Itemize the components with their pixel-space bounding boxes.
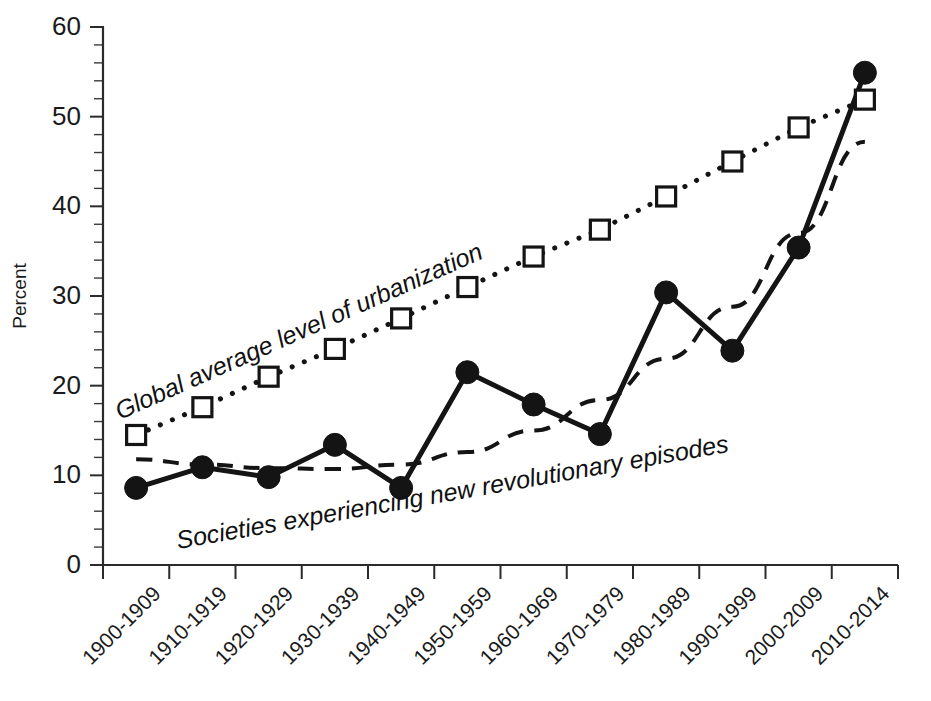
chart-figure: 0102030405060 1900-19091910-19191920-192… [0, 0, 931, 701]
data-point-marker [325, 339, 344, 358]
data-point-marker [257, 466, 280, 489]
y-axis-tick-label: 30 [52, 280, 81, 310]
data-point-marker [193, 398, 212, 417]
series-markers-group [125, 61, 877, 499]
y-axis-title: Percent [9, 263, 30, 329]
revolutions-label: Societies experiencing new revolutionary… [174, 429, 730, 554]
series-lines-group [136, 73, 865, 488]
y-axis-tick-label: 60 [52, 11, 81, 41]
data-point-marker [721, 339, 744, 362]
data-point-marker [853, 61, 876, 84]
x-axis-tick-labels: 1900-19091910-19191920-19291930-19391940… [78, 581, 894, 669]
data-point-marker [458, 278, 477, 297]
data-point-marker [191, 456, 214, 479]
data-point-marker [787, 236, 810, 259]
series-line-1 [136, 73, 865, 488]
data-point-marker [125, 476, 148, 499]
urbanization-label: Global average level of urbanization [111, 237, 487, 425]
y-axis-tick-label: 40 [52, 190, 81, 220]
data-point-marker [855, 90, 874, 109]
chart-annotations: Global average level of urbanizationSoci… [111, 237, 731, 554]
data-point-marker [323, 433, 346, 456]
series-line-2 [136, 142, 865, 469]
data-point-marker [655, 281, 678, 304]
y-axis-tick-label: 50 [52, 101, 81, 131]
series-line-0 [136, 100, 865, 435]
data-point-marker [789, 118, 808, 137]
y-axis-title-text: Percent [9, 263, 30, 329]
chart-plot-area: 0102030405060 1900-19091910-19191920-192… [0, 0, 931, 701]
data-point-marker [522, 393, 545, 416]
data-point-marker [456, 361, 479, 384]
data-point-marker [259, 367, 278, 386]
data-point-marker [657, 187, 676, 206]
data-point-marker [392, 309, 411, 328]
y-axis-tick-label: 10 [52, 459, 81, 489]
data-point-marker [588, 423, 611, 446]
data-point-marker [524, 247, 543, 266]
y-axis-tick-label: 20 [52, 370, 81, 400]
data-point-marker [723, 152, 742, 171]
data-point-marker [127, 425, 146, 444]
data-point-marker [590, 220, 609, 239]
y-axis-tick-labels: 0102030405060 [52, 11, 81, 579]
y-axis-tick-label: 0 [67, 549, 81, 579]
